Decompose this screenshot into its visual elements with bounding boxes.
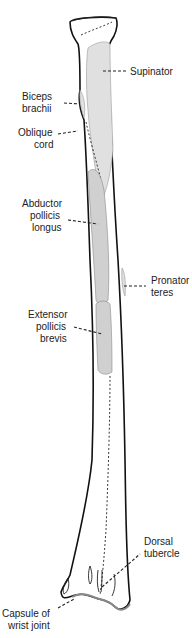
label-abductor-line3: longus xyxy=(32,222,61,233)
pronator-teres-area xyxy=(122,268,126,296)
label-extensor-line2: pollicis xyxy=(36,321,66,332)
biceps-leader xyxy=(64,103,80,104)
label-pronator-line1: Pronator xyxy=(151,275,190,286)
extensor-pollicis-brevis-area xyxy=(96,301,112,374)
label-biceps-line1: Biceps xyxy=(22,91,52,102)
label-extensor-line3: brevis xyxy=(40,333,67,344)
label-abductor-line2: pollicis xyxy=(30,210,60,221)
label-oblique-line2: cord xyxy=(34,139,53,150)
label-pronator-line2: teres xyxy=(151,287,173,298)
label-dorsal-line1: Dorsal xyxy=(144,536,173,547)
radius-diagram: Supinator Biceps brachii Oblique cord Ab… xyxy=(0,0,192,638)
label-capsule-line2: wrist joint xyxy=(7,620,50,631)
label-supinator: Supinator xyxy=(130,66,173,77)
label-capsule-line1: Capsule of xyxy=(2,608,50,619)
capsule-leader xyxy=(58,599,74,608)
label-extensor-line1: Extensor xyxy=(28,309,68,320)
label-biceps-line2: brachii xyxy=(22,103,51,114)
label-dorsal-line2: tubercle xyxy=(144,548,180,559)
oblique-leader xyxy=(58,131,78,134)
label-oblique-line1: Oblique xyxy=(18,127,53,138)
label-abductor-line1: Abductor xyxy=(22,198,63,209)
